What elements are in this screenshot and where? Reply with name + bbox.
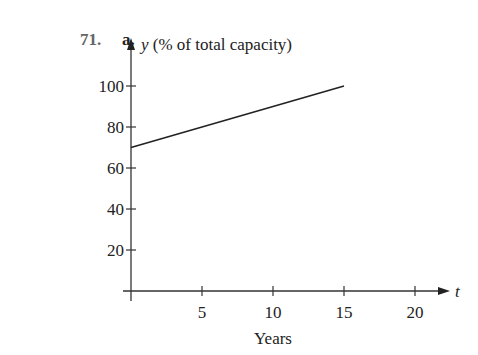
y-tick-label: 40 — [107, 200, 124, 219]
line-chart: y (% of total capacity)tYears20406080100… — [0, 0, 478, 355]
x-tick-label: 20 — [407, 303, 424, 322]
y-tick-label: 60 — [107, 159, 124, 178]
x-axis-arrow-icon — [438, 287, 450, 295]
y-tick-label: 20 — [107, 241, 124, 260]
x-tick-label: 15 — [336, 303, 353, 322]
y-tick-label: 80 — [107, 118, 124, 137]
y-axis-label: y (% of total capacity) — [139, 35, 292, 54]
x-tick-label: 10 — [265, 303, 282, 322]
y-tick-label: 100 — [99, 77, 125, 96]
x-axis-label: Years — [254, 329, 292, 348]
x-tick-label: 5 — [198, 303, 207, 322]
x-axis-variable: t — [455, 282, 461, 301]
y-axis-arrow-icon — [127, 38, 135, 50]
data-line — [131, 86, 344, 148]
